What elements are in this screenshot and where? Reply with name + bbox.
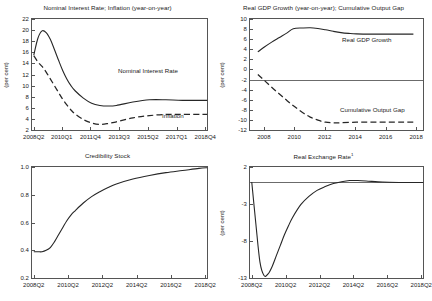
chart-panel-nominal-interest-inflation: Nominal Interest Rate; Inflation (year-o… [0,4,215,150]
panel-title-text: Real Exchange Rate [293,153,351,160]
y-tick-label: 16 [22,49,32,55]
chart-panel-gdp-growth-output-gap: Real GDP Growth (year-on-year); Cumulati… [216,4,431,150]
y-tick-label: -2 [241,77,250,83]
series-path [258,74,414,122]
plot-area: 2 -3 -8 -13 2008Q2 2010Q2 2012Q2 2014Q2 … [249,166,424,279]
series-label-cumulative-output-gap: Cumulative Output Gap [340,106,405,113]
panel-title-footnote-marker: 1 [351,152,354,157]
y-tick-label: 20 [22,27,32,33]
y-axis-label: (per cent) [219,55,225,95]
y-axis-label: (per cent) [219,203,225,243]
y-tick-label: 10 [240,16,250,22]
series-label-inflation: Inflation [162,112,184,119]
panel-title: Credibility Stock [0,152,215,159]
series-path [252,180,424,276]
y-tick-label: -4 [241,87,250,93]
series-curves [250,167,425,280]
y-tick-label: 0.6 [20,220,32,226]
y-tick-label: 0.8 [20,192,32,198]
plot-area: 10 8 6 4 2 0 -2 -4 -6 -8 -10 -12 2008 [249,18,424,131]
y-tick-label: -12 [238,127,250,133]
chart-panel-credibility-stock: Credibility Stock 1.0 0.8 0.6 0.4 0.2 20… [0,152,215,300]
y-tick-label: 12 [22,72,32,78]
y-tick-label: 10 [22,83,32,89]
chart-panel-real-exchange-rate: Real Exchange Rate1 (per cent) 2 -3 -8 -… [216,152,431,300]
panel-title: Real GDP Growth (year-on-year); Cumulati… [216,4,431,11]
y-tick-label: 14 [22,60,32,66]
y-tick-label: 1.0 [20,164,32,170]
y-tick-label: -8 [241,238,250,244]
y-tick-label: -8 [241,107,250,113]
plot-area: 22 20 18 16 14 12 10 8 6 4 2 2008Q2 2010… [31,18,208,131]
y-axis-label: (per cent) [3,55,9,95]
plot-area: 1.0 0.8 0.6 0.4 0.2 2008Q2 2010Q2 2012Q2… [31,166,208,279]
panel-title: Real Exchange Rate1 [216,152,431,160]
y-tick-label: 22 [22,16,32,22]
series-label-real-gdp-growth: Real GDP Growth [342,36,391,43]
series-curves [250,19,425,132]
y-tick-label: 18 [22,38,32,44]
y-tick-label: -6 [241,97,250,103]
panel-title: Nominal Interest Rate; Inflation (year-o… [0,4,215,11]
y-tick-label: -10 [238,117,250,123]
y-tick-label: 0.4 [20,247,32,253]
series-label-nominal-interest-rate: Nominal Interest Rate [118,67,178,74]
y-tick-label: -3 [241,201,250,207]
series-curves [32,167,209,280]
series-path [34,168,207,252]
